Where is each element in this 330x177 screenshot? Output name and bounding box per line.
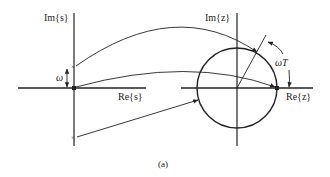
s-real-label: Re{s} xyxy=(118,91,143,102)
omega-t-arc-lower xyxy=(289,70,290,87)
s-imag-label: Im{s} xyxy=(44,12,69,23)
figure-caption: (a) xyxy=(158,159,168,169)
z-real-label: Re{z} xyxy=(286,91,311,102)
lower-pole-mapping-arrow xyxy=(77,100,198,137)
omega-label: ω xyxy=(56,72,63,83)
s-plane: Im{s} Re{s} × × ω xyxy=(18,12,146,146)
pole-lower-marker: × xyxy=(71,134,75,142)
mapping-arrows xyxy=(76,27,275,137)
s-to-z-mapping-diagram: Im{s} Re{s} × × ω Im{z} Re{z} ωT (a) xyxy=(0,0,330,177)
upper-pole-mapping-curve xyxy=(76,27,257,66)
omega-t-arc-upper xyxy=(268,42,283,54)
pole-upper-marker: × xyxy=(71,63,75,71)
omega-t-label: ωT xyxy=(275,57,289,68)
z-imag-label: Im{z} xyxy=(205,12,230,23)
origin-pole-marker xyxy=(72,86,76,90)
z-one-point-marker xyxy=(275,86,279,90)
